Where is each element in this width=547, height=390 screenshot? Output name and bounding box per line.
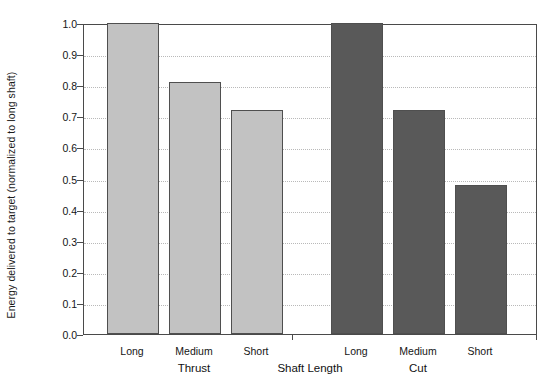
plot-area (83, 24, 537, 335)
y-axis-tick-label: 0.3 (31, 236, 77, 248)
bar-thrust-short (231, 110, 283, 334)
y-axis-tick-labels: 1.00.90.80.70.60.50.40.30.20.10.0 (15, 24, 77, 335)
bar-thrust-medium (169, 82, 221, 334)
bar-cut-long (331, 23, 383, 334)
y-axis-tick-label: 1.0 (31, 18, 77, 30)
x-axis-category-label: Short (467, 345, 492, 357)
x-axis-tick-marks (83, 334, 537, 344)
bar-cut-medium (393, 110, 445, 334)
x-axis-category-labels: LongMediumShortLongMediumShort (83, 345, 537, 361)
x-axis-category-label: Long (344, 345, 367, 357)
y-axis-tick-label: 0.5 (31, 174, 77, 186)
x-axis-category-label: Long (120, 345, 143, 357)
x-axis-category-label: Medium (399, 345, 436, 357)
y-axis-tick-label: 0.7 (31, 111, 77, 123)
y-axis-tick-label: 0.0 (31, 329, 77, 341)
y-axis-tick-label: 0.6 (31, 142, 77, 154)
bars (84, 25, 536, 334)
x-axis-tick-mark (292, 334, 293, 340)
bar-thrust-long (107, 23, 159, 334)
x-axis-title: Shaft Length (83, 362, 537, 374)
y-axis-tick-label: 0.1 (31, 298, 77, 310)
x-axis-category-label: Medium (175, 345, 212, 357)
y-axis-tick-label: 0.9 (31, 49, 77, 61)
bar-chart: Energy delivered to target (normalized t… (0, 0, 547, 390)
x-axis-category-label: Short (243, 345, 268, 357)
y-axis-tick-label: 0.4 (31, 205, 77, 217)
y-axis-tick-label: 0.8 (31, 80, 77, 92)
x-axis-tick-mark (536, 334, 537, 340)
bar-cut-short (455, 185, 507, 334)
y-axis-tick-label: 0.2 (31, 267, 77, 279)
